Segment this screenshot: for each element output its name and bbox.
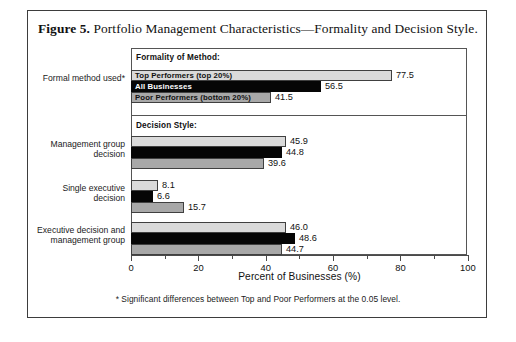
x-axis-title: Percent of Businesses (%) (131, 271, 468, 282)
x-tick-70 (367, 255, 368, 259)
bar-all-businesses (131, 191, 153, 202)
figure-number: Figure 5. (38, 21, 90, 36)
x-tick-10 (165, 255, 166, 259)
x-axis: 0 20 40 60 80 100 (131, 255, 468, 256)
bar-label-poor-performers: Poor Performers (bottom 20%) (135, 92, 251, 103)
bar-value-all-businesses: 44.8 (286, 146, 304, 158)
bar-all-businesses (131, 233, 295, 244)
x-tick-0 (131, 255, 132, 261)
section-header-decision: Decision Style: (136, 121, 197, 130)
x-tick-40 (266, 255, 267, 261)
bar-value-poor-performers: 41.5 (275, 91, 293, 103)
bar-value-poor-performers: 44.7 (286, 243, 304, 255)
bar-value-poor-performers: 15.7 (188, 201, 206, 213)
bar-poor-performers (131, 158, 264, 169)
bar-label-all-businesses: All Businesses (135, 81, 192, 92)
section-divider (131, 115, 467, 116)
x-tick-50 (299, 255, 300, 259)
figure-footnote: * Significant differences between Top an… (38, 294, 478, 304)
figure-caption: Figure 5. Portfolio Management Character… (38, 21, 490, 37)
bar-top-performers (131, 180, 158, 191)
bar-poor-performers (131, 244, 282, 255)
section-header-formality: Formality of Method: (136, 53, 220, 62)
x-tick-80 (400, 255, 401, 261)
x-tick-60 (333, 255, 334, 261)
x-tick-20 (198, 255, 199, 261)
bar-label-top-performers: Top Performers (top 20%) (135, 70, 232, 81)
bar-value-all-businesses: 6.6 (157, 190, 170, 202)
figure-root: Figure 5. Portfolio Management Character… (0, 0, 516, 342)
category-label-column: Formal method used* Management group dec… (18, 48, 125, 255)
bar-value-top-performers: 77.5 (396, 69, 414, 81)
bar-value-poor-performers: 39.6 (268, 157, 286, 169)
figure-caption-text: Portfolio Management Characteristics—For… (90, 21, 478, 36)
bar-top-performers (131, 222, 286, 233)
category-label-single-executive: Single executive decision (19, 183, 125, 204)
x-tick-30 (232, 255, 233, 259)
bar-value-all-businesses: 56.5 (325, 80, 343, 92)
category-label-management-group: Management group decision (19, 139, 125, 160)
x-tick-90 (434, 255, 435, 259)
x-tick-100 (468, 255, 469, 261)
bar-all-businesses (131, 147, 282, 158)
bar-poor-performers (131, 202, 184, 213)
category-label-formal-method: Formal method used* (19, 73, 125, 83)
category-label-executive-and-management: Executive decision and management group (19, 225, 125, 246)
plot-area: Formality of Method: Decision Style: Top… (131, 48, 467, 255)
bar-top-performers (131, 136, 286, 147)
